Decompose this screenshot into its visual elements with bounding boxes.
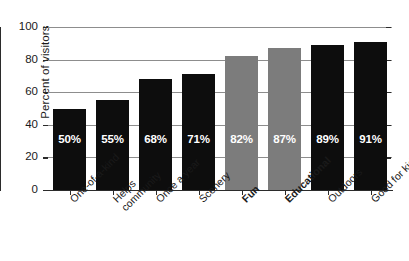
- y-tick-mark-80: [43, 60, 48, 61]
- category-label: Good for kids: [369, 197, 377, 205]
- bar-chart: Percent of visitors 020406080100 50%55%6…: [0, 0, 409, 261]
- bar: [53, 109, 86, 191]
- y-tick-mark-20: [43, 157, 48, 158]
- bar-value-label: 71%: [182, 133, 215, 145]
- y-tick-label-0: 0: [8, 183, 38, 195]
- y-tick-mark-0: [43, 190, 48, 191]
- bar-value-label: 87%: [268, 133, 301, 145]
- y-tick-mark-right-100: [386, 27, 391, 28]
- y-tick-mark-100: [43, 27, 48, 28]
- bar-value-label: 82%: [225, 133, 258, 145]
- category-label: Scenery: [197, 197, 205, 205]
- category-label: Once a year: [154, 197, 162, 205]
- y-tick-mark-40: [43, 125, 48, 126]
- bar-value-label: 89%: [311, 133, 344, 145]
- bar: [225, 56, 258, 190]
- category-label: Educational: [283, 197, 291, 205]
- category-label: One-of-a-kind: [68, 197, 76, 205]
- y-tick-label-20: 20: [8, 150, 38, 162]
- y-axis-title: Percent of visitors: [39, 0, 51, 162]
- bar: [268, 48, 301, 190]
- category-label: Helps community: [111, 197, 127, 213]
- bar-value-label: 68%: [139, 133, 172, 145]
- gridline-100: [48, 27, 392, 28]
- y-tick-mark-60: [43, 92, 48, 93]
- bar-value-label: 91%: [354, 133, 387, 145]
- y-tick-label-40: 40: [8, 118, 38, 130]
- y-tick-label-60: 60: [8, 85, 38, 97]
- category-label: Outdoors: [326, 197, 334, 205]
- y-tick-label-80: 80: [8, 53, 38, 65]
- y-tick-label-100: 100: [8, 20, 38, 32]
- bar: [354, 42, 387, 190]
- y-axis-line: [0, 27, 1, 191]
- bar-value-label: 50%: [53, 133, 86, 145]
- bar-value-label: 55%: [96, 133, 129, 145]
- category-label: Fun: [240, 197, 248, 205]
